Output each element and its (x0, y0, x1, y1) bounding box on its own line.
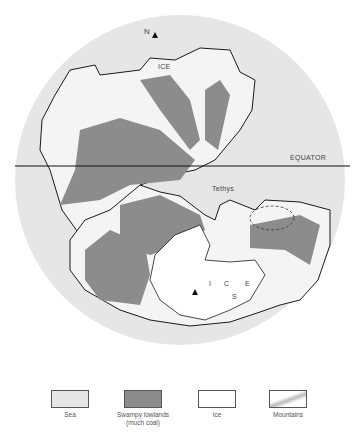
tethys-label: Tethys (212, 185, 234, 192)
legend-label: Mountains (265, 411, 311, 419)
legend-item-ice: Ice (195, 390, 239, 419)
ice-south-label-i: I (209, 280, 211, 287)
swampy-lowlands-swatch (124, 390, 162, 408)
sea-swatch (51, 390, 89, 408)
paleogeographic-map (0, 0, 360, 360)
legend-label: Sea (48, 411, 92, 419)
ice-south-label-e: E (245, 280, 250, 287)
legend-label: Swampy lowlands (108, 411, 178, 419)
legend-item-mountains: Mountains (265, 390, 311, 419)
ice-north-label: ICE (158, 63, 171, 70)
north-label: N (144, 27, 150, 36)
equator-label: EQUATOR (290, 154, 326, 161)
ice-swatch (198, 390, 236, 408)
legend-label: Ice (195, 411, 239, 419)
legend-item-swampy-lowlands: Swampy lowlands (much coal) (108, 390, 178, 427)
mountains-swatch (269, 390, 307, 408)
legend-item-sea: Sea (48, 390, 92, 419)
legend-sublabel: (much coal) (108, 419, 178, 427)
ice-south-label-c: C (224, 280, 229, 287)
south-label: S (232, 293, 237, 300)
legend: Sea Swampy lowlands (much coal) Ice Moun… (0, 390, 360, 436)
